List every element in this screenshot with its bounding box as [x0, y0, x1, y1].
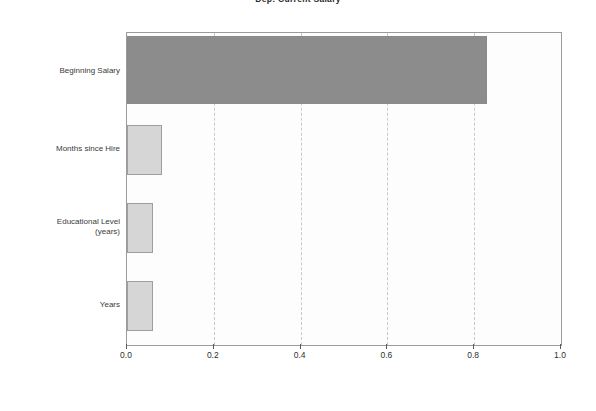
bar: [127, 203, 153, 253]
x-axis-tick-mark: [473, 344, 474, 349]
x-axis-tick-mark: [300, 344, 301, 349]
plot-area: [126, 32, 562, 346]
x-axis-tick-mark: [126, 344, 127, 349]
bar: [127, 36, 487, 104]
y-axis-tick-label: Educational Level (years): [10, 217, 126, 237]
x-axis-tick-label: 0.2: [207, 350, 219, 360]
bar-chart-figure: Dep: Current Salary Beginning SalaryMont…: [0, 0, 596, 411]
chart-title: Dep: Current Salary: [0, 0, 596, 6]
y-axis-tick-label: Years: [10, 300, 126, 310]
x-axis-tick-mark: [213, 344, 214, 349]
x-axis-tick-label: 0.0: [120, 350, 132, 360]
x-axis-tick-mark: [386, 344, 387, 349]
y-axis-tick-label: Beginning Salary: [10, 66, 126, 76]
bar: [127, 125, 162, 175]
x-axis: 0.00.20.40.60.81.0: [126, 344, 560, 368]
y-axis-tick-label: Months since Hire: [10, 144, 126, 154]
x-axis-tick-label: 0.6: [380, 350, 392, 360]
y-axis-tick-labels: Beginning SalaryMonths since HireEducati…: [0, 32, 126, 344]
bar: [127, 281, 153, 331]
x-axis-tick-mark: [560, 344, 561, 349]
x-axis-tick-label: 0.4: [294, 350, 306, 360]
x-axis-tick-label: 0.8: [467, 350, 479, 360]
x-axis-tick-label: 1.0: [554, 350, 566, 360]
